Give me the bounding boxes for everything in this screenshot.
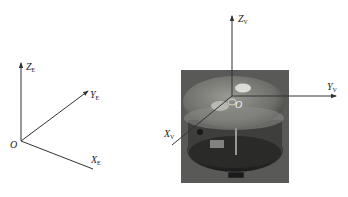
robot-photo (181, 70, 289, 183)
y-axis-earth (21, 91, 88, 141)
x-axis-earth (21, 141, 93, 169)
y-axis-vehicle-label: YV (327, 81, 338, 93)
x-axis-earth-label: XE (90, 154, 101, 166)
coordinate-frames-diagram: ZE YE XE O ZV YV XV O (0, 0, 348, 197)
y-axis-earth-label: YE (90, 89, 100, 101)
x-axis-vehicle-label: XV (163, 128, 175, 140)
origin-vehicle-label: O (235, 99, 242, 110)
z-axis-earth-label: ZE (26, 61, 36, 73)
z-axis-vehicle-label: ZV (238, 13, 249, 25)
earth-frame: ZE YE XE O (10, 61, 101, 169)
origin-earth-label: O (10, 139, 17, 150)
